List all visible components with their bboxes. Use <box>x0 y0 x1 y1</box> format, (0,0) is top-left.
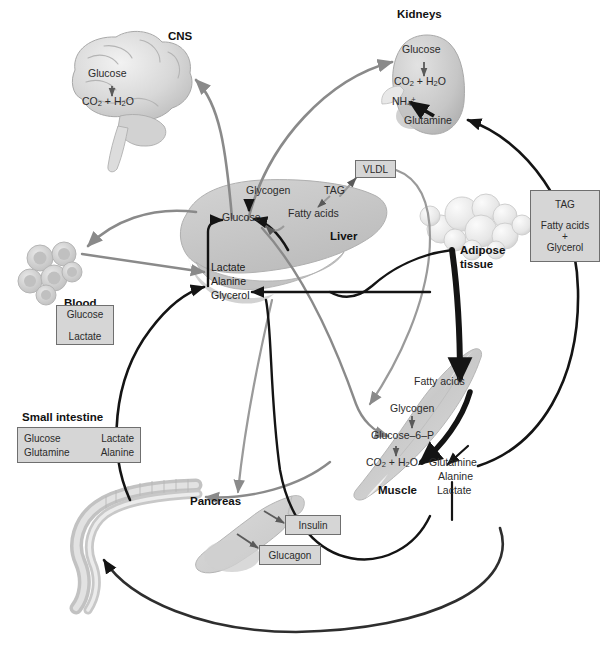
kidneys-title: Kidneys <box>397 8 442 21</box>
arrow-muscle-to-kidneys <box>468 120 578 466</box>
adipose-title-line1: Adipose <box>460 244 505 257</box>
vldl-label: VLDL <box>363 164 388 175</box>
arrow-liver-to-muscle <box>262 228 388 436</box>
si-glucose-label: Glucose <box>24 433 61 444</box>
glucagon-label: Glucagon <box>269 550 312 561</box>
liver-lactate-label: Lactate <box>211 262 245 274</box>
muscle-title: Muscle <box>378 484 417 497</box>
arrow-blood-to-liver-lactate <box>82 254 204 272</box>
si-alanine-label: Alanine <box>101 447 134 458</box>
adipose-fattyacids-label: Fatty acids <box>541 220 589 231</box>
muscle-co2-label: CO2 + H2O <box>366 457 418 469</box>
insulin-label: Insulin <box>299 520 328 531</box>
muscle-glutamine-label: Glutamine <box>429 457 477 469</box>
muscle-alanine-label: Alanine <box>438 471 473 483</box>
arrow-intestine-to-liver <box>117 287 204 500</box>
diagram-canvas: CNS Glucose CO2 + H2O Kidneys Glucose CO… <box>0 0 614 647</box>
blood-glucose-label: Glucose <box>67 309 104 320</box>
adipose-tag-label: TAG <box>555 199 575 210</box>
cns-title: CNS <box>168 30 192 43</box>
cns-glucose-label: Glucose <box>88 68 127 80</box>
adipose-plus-label: + <box>562 231 568 242</box>
arrow-vldl-to-adipose <box>370 170 430 404</box>
liver-alanine-label: Alanine <box>211 276 246 288</box>
pancreas-title: Pancreas <box>190 495 241 508</box>
si-glutamine-label: Glutamine <box>24 447 70 458</box>
arrow-pancreas-to-insulin <box>264 511 284 523</box>
arrow-pancreas-to-glucagon <box>237 534 258 548</box>
adipose-title-line2: tissue <box>460 258 493 271</box>
liver-title: Liver <box>330 230 358 243</box>
muscle-g6p-label: Glucose–6–P <box>371 430 434 442</box>
blood-lactate-label: Lactate <box>69 331 102 342</box>
glucagon-box: Glucagon <box>259 545 321 565</box>
kidney-co2-label: CO2 + H2O <box>394 76 446 88</box>
small-intestine-title: Small intestine <box>22 411 103 424</box>
muscle-fattyacids-label: Fatty acids <box>414 376 465 388</box>
si-lactate-label: Lactate <box>101 433 134 444</box>
liver-tag-label: TAG <box>324 185 345 197</box>
liver-glycerol-label: Glycerol <box>211 290 250 302</box>
arrow-bottom-circulation <box>104 528 503 632</box>
adipose-glycerol-label: Glycerol <box>547 242 584 253</box>
insulin-box: Insulin <box>285 515 341 535</box>
arrow-adipose-glycerol-to-liver <box>330 250 452 297</box>
arrow-liver-to-cns <box>196 80 232 218</box>
small-intestine-box: Glucose Lactate Glutamine Alanine <box>17 427 141 463</box>
arrow-adipose-to-muscle-fattyacids <box>452 250 460 378</box>
muscle-glycogen-label: Glycogen <box>390 403 434 415</box>
arrow-liver-to-blood <box>88 211 196 246</box>
kidney-nh4-label: NH4+ <box>392 96 416 108</box>
muscle-lactate-label: Lactate <box>437 485 471 497</box>
liver-glucose-label: Glucose <box>222 212 261 224</box>
kidney-glutamine-label: Glutamine <box>404 115 452 127</box>
arrow-liver-to-intestine <box>206 462 330 497</box>
vldl-box: VLDL <box>355 160 396 178</box>
cns-co2-label: CO2 + H2O <box>82 96 134 108</box>
blood-box: Glucose Lactate <box>56 305 114 345</box>
kidney-glucose-label: Glucose <box>402 44 441 56</box>
liver-glycogen-label: Glycogen <box>246 185 290 197</box>
adipose-box: TAG Fatty acids + Glycerol <box>530 190 600 262</box>
arrow-liver-tag-to-fattyacids <box>318 196 330 207</box>
liver-fattyacids-label: Fatty acids <box>288 208 339 220</box>
